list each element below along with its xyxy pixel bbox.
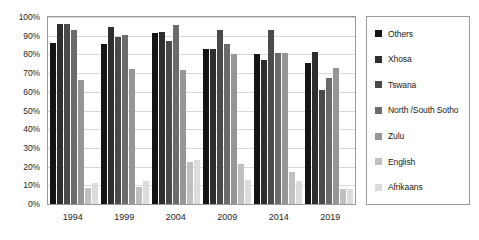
bar — [101, 44, 107, 204]
legend-item-afrikaans[interactable]: Afrikaans — [375, 182, 469, 192]
bar — [210, 49, 216, 204]
bar — [50, 43, 56, 204]
bar — [305, 63, 311, 204]
legend-item-xhosa[interactable]: Xhosa — [375, 54, 469, 64]
legend-swatch-icon — [375, 30, 382, 37]
legend-swatch-icon — [375, 158, 382, 165]
chart-legend: OthersXhosaTswanaNorth /South SothoZuluE… — [366, 16, 470, 205]
bars-layer — [48, 17, 355, 204]
y-axis-tick-label: 60% — [23, 87, 40, 97]
bar — [180, 70, 186, 204]
y-axis-tick-label: 50% — [23, 106, 40, 116]
bar — [166, 41, 172, 204]
x-axis-tick-label: 2004 — [150, 207, 202, 227]
bar — [254, 54, 260, 204]
bar — [231, 54, 237, 204]
y-axis: 100%90%80%70%60%50%40%30%20%10%0% — [0, 16, 44, 205]
legend-swatch-icon — [375, 184, 382, 191]
x-axis-tick-label: 2009 — [202, 207, 254, 227]
bar-group-1999 — [99, 17, 150, 204]
bar — [136, 187, 142, 204]
bar — [217, 30, 223, 204]
y-axis-tick-label: 20% — [23, 162, 40, 172]
legend-item-north-south-sotho[interactable]: North /South Sotho — [375, 105, 469, 115]
bar-group-1994 — [48, 17, 99, 204]
bar — [245, 180, 251, 204]
chart-page: 100%90%80%70%60%50%40%30%20%10%0% 199419… — [0, 0, 479, 240]
bar — [312, 52, 318, 204]
bar — [289, 172, 295, 204]
bar — [71, 30, 77, 204]
bar — [194, 160, 200, 204]
plot-area — [47, 16, 356, 205]
y-axis-tick-label: 90% — [23, 31, 40, 41]
bar — [261, 60, 267, 204]
bar — [282, 53, 288, 204]
legend-item-label: Xhosa — [388, 54, 412, 64]
legend-item-label: Others — [388, 29, 413, 39]
legend-item-others[interactable]: Others — [375, 29, 469, 39]
bar — [173, 25, 179, 204]
legend-swatch-icon — [375, 133, 382, 140]
bar — [92, 183, 98, 204]
y-axis-tick-label: 100% — [19, 12, 40, 22]
bar — [159, 32, 165, 204]
bar — [326, 78, 332, 204]
legend-item-label: English — [388, 157, 415, 167]
bar — [78, 80, 84, 204]
y-axis-tick-label: 80% — [23, 49, 40, 59]
bar — [268, 30, 274, 204]
bar-group-2014 — [253, 17, 304, 204]
bar — [224, 44, 230, 204]
bar — [152, 33, 158, 204]
legend-swatch-icon — [375, 107, 382, 114]
bar — [275, 53, 281, 204]
y-axis-tick-label: 30% — [23, 143, 40, 153]
bar — [347, 189, 353, 204]
y-axis-tick-label: 70% — [23, 68, 40, 78]
y-axis-tick-label: 0% — [28, 199, 40, 209]
bar-group-2004 — [150, 17, 201, 204]
bar — [319, 90, 325, 204]
bar-group-2019 — [304, 17, 355, 204]
bar — [115, 37, 121, 204]
x-axis-tick-label: 2014 — [253, 207, 305, 227]
bar — [122, 35, 128, 204]
y-axis-tick-label: 40% — [23, 124, 40, 134]
x-axis: 199419992004200920142019 — [47, 207, 356, 227]
y-axis-tick-label: 10% — [23, 180, 40, 190]
bar-group-2009 — [202, 17, 253, 204]
legend-item-label: Zulu — [388, 131, 404, 141]
x-axis-tick-label: 1999 — [99, 207, 151, 227]
legend-item-label: North /South Sotho — [388, 105, 459, 115]
bar — [108, 27, 114, 204]
legend-item-english[interactable]: English — [375, 157, 469, 167]
bar — [333, 68, 339, 205]
bar — [64, 24, 70, 204]
x-axis-tick-label: 1994 — [47, 207, 99, 227]
bar — [187, 162, 193, 204]
legend-item-tswana[interactable]: Tswana — [375, 80, 469, 90]
x-axis-tick-label: 2019 — [305, 207, 357, 227]
bar — [340, 189, 346, 204]
bar — [296, 181, 302, 204]
bar — [57, 24, 63, 204]
bar — [238, 164, 244, 204]
legend-item-label: Afrikaans — [388, 182, 423, 192]
legend-swatch-icon — [375, 56, 382, 63]
legend-swatch-icon — [375, 81, 382, 88]
gridline — [48, 204, 355, 205]
legend-item-label: Tswana — [388, 80, 416, 90]
bar — [203, 49, 209, 204]
bar — [143, 181, 149, 204]
bar — [129, 69, 135, 204]
legend-item-zulu[interactable]: Zulu — [375, 131, 469, 141]
bar — [85, 188, 91, 204]
